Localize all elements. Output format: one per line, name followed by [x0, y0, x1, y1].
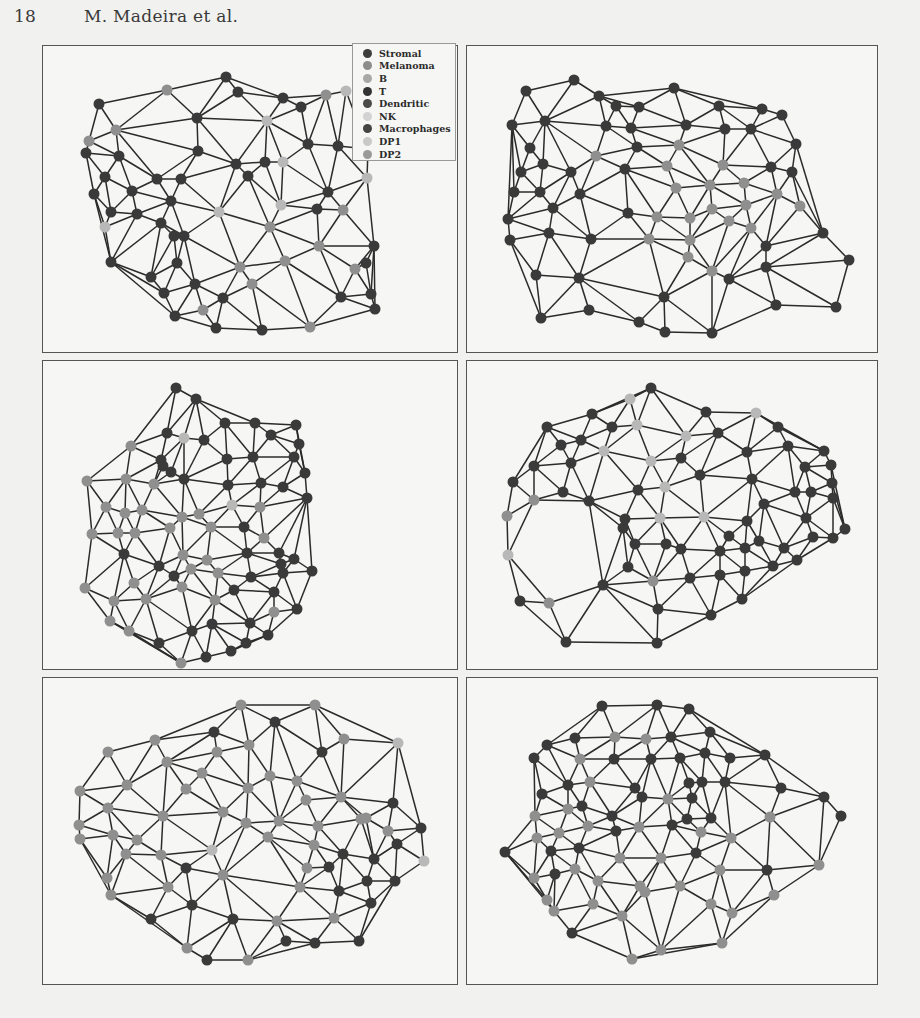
graph-node: [599, 446, 610, 457]
graph-edge: [161, 850, 212, 855]
graph-edge: [572, 933, 632, 959]
graph-edge: [536, 233, 549, 275]
graph-node: [197, 768, 208, 779]
graph-node: [724, 531, 735, 542]
graph-edge: [167, 399, 196, 433]
graph-node: [623, 562, 634, 573]
graph-edge: [87, 479, 126, 481]
graph-edge: [589, 501, 625, 519]
graph-node: [124, 626, 135, 637]
graph-edge: [116, 130, 198, 151]
graph-edge: [725, 782, 770, 817]
graph-node: [292, 776, 303, 787]
graph-node: [792, 555, 803, 566]
graph-edge: [747, 479, 752, 521]
graph-node: [561, 637, 572, 648]
graph-node: [108, 830, 119, 841]
graph-edge: [603, 585, 658, 609]
graph-node: [366, 289, 377, 300]
graph-edge: [279, 781, 297, 821]
graph-edge: [241, 705, 275, 722]
graph-edge: [545, 121, 606, 126]
graph-edge: [341, 797, 393, 803]
graph-node: [766, 162, 777, 173]
graph-node: [754, 536, 765, 547]
graph-edge: [275, 722, 322, 752]
graph-node: [634, 822, 645, 833]
graph-node: [301, 795, 312, 806]
graph-edge: [704, 517, 720, 551]
legend-label: Macrophages: [379, 123, 451, 134]
graph-edge: [184, 459, 227, 479]
graph-node: [515, 596, 526, 607]
graph-node: [179, 433, 190, 444]
graph-edge: [326, 95, 338, 146]
graph-node: [586, 234, 597, 245]
graph-edge: [111, 214, 137, 262]
graph-edge: [339, 854, 343, 891]
graph-node: [724, 274, 735, 285]
graph-edge: [207, 919, 233, 960]
graph-edge: [549, 585, 603, 603]
graph-edge: [690, 185, 710, 218]
graph-edge: [281, 162, 283, 205]
graph-node: [737, 594, 748, 605]
graph-edge: [146, 599, 159, 643]
graph-node: [310, 938, 321, 949]
graph-node: [323, 187, 334, 198]
graph-node: [776, 783, 787, 794]
graph-edge: [265, 121, 267, 162]
graph-node: [207, 845, 218, 856]
graph-node: [227, 500, 238, 511]
graph-edge: [700, 475, 704, 517]
graph-edge: [589, 501, 623, 528]
graph-node: [570, 864, 581, 875]
graph-node: [648, 576, 659, 587]
graph-node: [152, 174, 163, 185]
graph-node: [542, 895, 553, 906]
graph-edge: [161, 816, 163, 855]
graph-node: [623, 208, 634, 219]
legend: StromalMelanomaBTDendriticNKMacrophagesD…: [352, 43, 456, 161]
graph-node: [154, 561, 165, 572]
graph-node: [369, 854, 380, 865]
graph-edge: [770, 817, 819, 865]
graph-edge: [317, 209, 319, 246]
graph-node: [653, 604, 664, 615]
graph-node: [281, 936, 292, 947]
graph-node: [777, 110, 788, 121]
graph-panel-4: [466, 360, 878, 670]
graph-node: [121, 474, 132, 485]
graph-edge: [665, 487, 704, 517]
graph-edge: [579, 848, 620, 858]
graph-edge: [720, 870, 732, 913]
graph-node: [676, 453, 687, 464]
graph-node: [278, 157, 289, 168]
graph-node: [641, 734, 652, 745]
graph-node: [265, 771, 276, 782]
graph-node: [295, 882, 306, 893]
graph-node: [607, 422, 618, 433]
legend-item: Stromal: [357, 47, 451, 60]
graph-edge: [212, 823, 246, 850]
graph-node: [370, 304, 381, 315]
graph-node: [806, 487, 817, 498]
graph-node: [154, 638, 165, 649]
graph-edge: [681, 517, 704, 549]
graph-node: [790, 487, 801, 498]
graph-node: [831, 302, 842, 313]
graph-edge: [111, 223, 161, 262]
graph-node: [687, 793, 698, 804]
graph-node: [312, 204, 323, 215]
graph-node: [563, 804, 574, 815]
graph-node: [241, 818, 252, 829]
graph-edge: [512, 91, 526, 125]
graph-edge: [197, 118, 267, 121]
graph-edge: [267, 121, 283, 162]
graph-edge: [187, 905, 192, 948]
graph-node: [169, 231, 180, 242]
graph-node: [575, 189, 586, 200]
graph-edge: [639, 827, 661, 858]
graph-node: [705, 727, 716, 738]
graph-edge: [653, 544, 666, 581]
